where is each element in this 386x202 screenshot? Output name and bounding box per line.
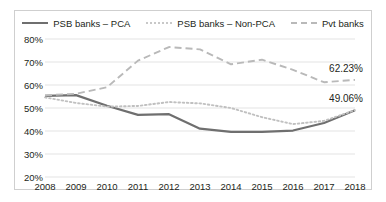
legend-swatch-dotted-icon — [146, 22, 172, 24]
x-axis-tick-label: 2018 — [344, 181, 365, 192]
data-point-label: 49.06% — [329, 93, 363, 104]
x-axis-tick-label: 2010 — [96, 181, 117, 192]
legend-swatch-solid-icon — [22, 22, 48, 24]
y-axis-tick-label: 70% — [15, 57, 43, 68]
x-axis: 2008200920102011201220132014201520162017… — [45, 179, 355, 195]
legend-item-psb-non-pca[interactable]: PSB banks – Non-PCA — [146, 18, 275, 29]
legend-item-pvt-banks[interactable]: Pvt banks — [291, 18, 364, 29]
y-axis-tick-label: 30% — [15, 149, 43, 160]
x-axis-tick-label: 2012 — [158, 181, 179, 192]
x-axis-tick-label: 2009 — [65, 181, 86, 192]
y-axis-tick-label: 60% — [15, 80, 43, 91]
x-axis-tick-label: 2017 — [313, 181, 334, 192]
series-line — [45, 95, 355, 132]
plot-area — [45, 39, 355, 177]
x-axis-tick-label: 2008 — [34, 181, 55, 192]
x-axis-tick-label: 2015 — [251, 181, 272, 192]
chart-container: PSB banks – PCA PSB banks – Non-PCA Pvt … — [14, 10, 372, 190]
legend-label-psb-pca: PSB banks – PCA — [53, 18, 130, 29]
y-axis-tick-label: 50% — [15, 103, 43, 114]
series-lines — [45, 47, 355, 132]
y-axis: 20%30%40%50%60%70%80% — [15, 39, 43, 177]
x-axis-tick-label: 2011 — [128, 181, 148, 192]
y-axis-tick-label: 40% — [15, 126, 43, 137]
series-line — [45, 47, 355, 95]
x-axis-tick-label: 2014 — [220, 181, 241, 192]
x-axis-tick-label: 2016 — [282, 181, 303, 192]
legend-item-psb-pca[interactable]: PSB banks – PCA — [22, 18, 130, 29]
legend-label-pvt-banks: Pvt banks — [322, 18, 364, 29]
plot-svg — [45, 39, 355, 177]
y-axis-tick-label: 80% — [15, 34, 43, 45]
legend-swatch-dashed-icon — [291, 22, 317, 24]
data-point-label: 62.23% — [329, 62, 363, 73]
x-axis-tick-label: 2013 — [189, 181, 210, 192]
chart-legend: PSB banks – PCA PSB banks – Non-PCA Pvt … — [15, 15, 371, 31]
gridlines — [45, 39, 355, 177]
legend-label-psb-non-pca: PSB banks – Non-PCA — [177, 18, 275, 29]
